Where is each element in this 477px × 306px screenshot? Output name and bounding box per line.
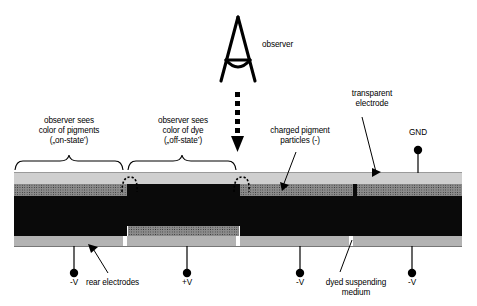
terminal-label-3: -V [286,278,314,288]
callout-dyed-suspending-medium: dyed suspending medium [308,278,404,298]
particle-path-arc-2 [234,177,249,192]
terminal-label-4: -V [398,278,426,288]
brace-off-state [128,155,236,170]
terminal-label-2: +V [173,278,201,288]
terminal-lead-4 [408,246,416,277]
callout-ground: GND [399,128,437,138]
callout-charged-pigment-particles: charged pigment particles (-) [252,126,348,146]
callout-rear-electrodes: rear electrodes [86,278,176,288]
callout-transparent-electrode: transparent electrode [330,89,414,109]
particle-path-arc-1 [122,177,137,192]
leader-transparent-electrode [362,117,381,177]
eye-observer-icon [221,17,255,81]
observer-label: observer [262,40,332,50]
diagram-canvas: observer observer sees color of pigments… [0,0,477,306]
brace-label-off-state: observer sees color of dye („off-state’) [124,116,242,147]
brace-on-state [15,155,123,170]
annotation-overlay [0,0,477,306]
leader-charged-pigment-particles [280,152,296,191]
leader-rear-electrodes [88,244,108,273]
terminal-label-1: -V [60,278,88,288]
terminal-lead-1 [70,246,78,277]
terminal-lead-2 [183,246,191,277]
brace-label-on-state: observer sees color of pigments („on-sta… [8,116,130,147]
ground-terminal [414,146,422,173]
leader-dyed-suspending-medium [340,240,352,272]
terminal-lead-3 [296,246,304,277]
